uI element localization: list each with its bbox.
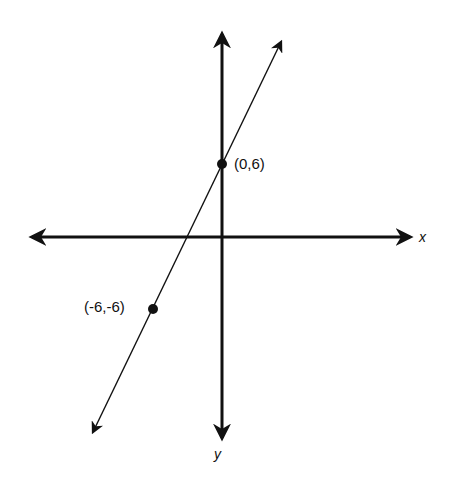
point-neg6-neg6 [148, 304, 158, 314]
point-label-neg6-neg6: (-6,-6) [84, 298, 125, 315]
coordinate-plane [0, 0, 450, 486]
x-axis-label: x [419, 229, 426, 245]
point-0-6 [217, 159, 227, 169]
point-label-0-6: (0,6) [234, 155, 265, 172]
y-axis-label: y [214, 446, 221, 462]
